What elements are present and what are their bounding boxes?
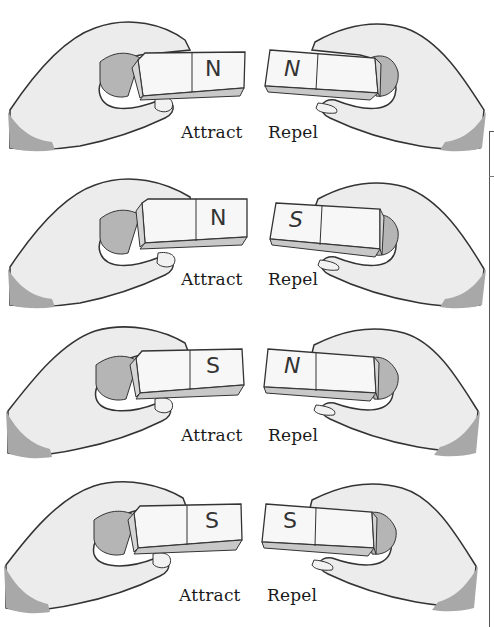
hands-holding-magnets-illustration — [0, 313, 494, 470]
right-bar-magnet — [270, 203, 384, 257]
magnet-pair-row-1: N N Attract Repel — [0, 0, 494, 157]
right-magnet-pole-label: S — [283, 508, 297, 533]
right-bar-magnet — [265, 50, 381, 100]
magnet-pair-row-4: S S Attract Repel — [0, 470, 494, 627]
left-magnet-pole-label: S — [206, 353, 220, 378]
left-magnet-pole-label: N — [210, 205, 226, 230]
magnet-pair-row-3: S N Attract Repel — [0, 313, 494, 470]
left-bar-magnet — [132, 52, 245, 100]
repel-label: Repel — [268, 122, 318, 142]
repel-label: Repel — [268, 269, 318, 289]
repel-label: Repel — [267, 585, 317, 605]
right-magnet-pole-label: N — [284, 353, 300, 378]
left-magnet-pole-label: N — [205, 56, 221, 81]
right-bar-magnet — [264, 349, 379, 401]
left-bar-magnet — [130, 349, 244, 399]
attract-label: Attract — [181, 122, 243, 142]
left-bar-magnet — [136, 199, 247, 249]
left-magnet-pole-label: S — [205, 508, 219, 533]
attract-label: Attract — [181, 425, 243, 445]
hands-holding-magnets-illustration — [0, 0, 494, 157]
attract-label: Attract — [179, 585, 241, 605]
left-bar-magnet — [128, 504, 242, 554]
hands-holding-magnets-illustration — [0, 470, 494, 627]
right-bar-magnet — [262, 504, 377, 556]
right-magnet-pole-label: N — [284, 56, 300, 81]
hands-holding-magnets-illustration — [0, 157, 494, 314]
right-magnet-pole-label: S — [289, 207, 303, 232]
magnet-pair-row-2: N S Attract Repel — [0, 157, 494, 314]
attract-label: Attract — [181, 269, 243, 289]
repel-label: Repel — [268, 425, 318, 445]
